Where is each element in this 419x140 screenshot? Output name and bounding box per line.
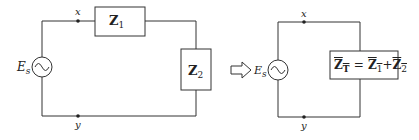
right-node-x-label: x xyxy=(301,9,307,19)
equivalence-arrow-icon xyxy=(231,62,251,78)
left-node-x-label: x xyxy=(75,7,81,17)
right-node-y xyxy=(302,115,306,119)
right-node-y-label: y xyxy=(301,121,307,131)
left-source-label: Es xyxy=(17,61,30,76)
zt-equation: ZT = Z1+Z2 xyxy=(334,59,407,74)
z2-label: Z2 xyxy=(188,64,203,80)
z1-label: Z1 xyxy=(109,14,124,30)
right-source-label: Es xyxy=(254,65,267,79)
right-node-x xyxy=(302,20,306,24)
left-node-y xyxy=(76,114,80,118)
left-node-y-label: y xyxy=(75,120,81,130)
left-node-x xyxy=(76,19,80,23)
